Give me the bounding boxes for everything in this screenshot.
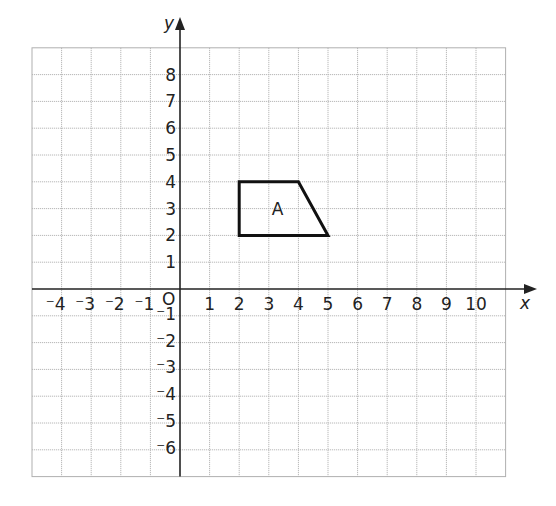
x-tick-label: 8 [411,294,422,314]
y-tick-label: 1 [165,252,176,272]
y-axis-arrow-icon [175,17,185,30]
x-tick-label: 3 [263,294,274,314]
shape-label: A [272,199,284,219]
x-tick-label: 5 [323,294,334,314]
y-tick-label: 4 [165,172,176,192]
x-tick-labels: ⁻4⁻3⁻2⁻112345678910 [46,294,487,314]
y-tick-label: 5 [165,145,176,165]
y-tick-label: 3 [165,199,176,219]
coordinate-grid-chart: x y O ⁻4⁻3⁻2⁻112345678910 87654321⁻1⁻2⁻3… [0,0,556,506]
x-tick-label: 2 [234,294,245,314]
axes: x y O [32,13,537,477]
y-tick-label: 2 [165,225,176,245]
x-tick-label: ⁻2 [105,294,125,314]
y-tick-label: ⁻4 [156,384,176,404]
x-tick-label: ⁻3 [75,294,95,314]
y-tick-label: ⁻3 [156,357,176,377]
y-tick-label: ⁻1 [156,304,176,324]
x-tick-label: 9 [441,294,452,314]
x-tick-label: 6 [352,294,363,314]
y-tick-label: ⁻5 [156,411,176,431]
x-tick-label: 10 [465,294,487,314]
x-tick-label: 4 [293,294,304,314]
x-tick-label: 7 [382,294,393,314]
y-axis-label: y [163,13,175,33]
x-axis-label: x [519,293,531,313]
x-tick-label: 1 [204,294,215,314]
y-tick-label: 7 [165,91,176,111]
x-tick-label: ⁻1 [135,294,155,314]
grid-lines [32,48,506,477]
y-tick-label: ⁻6 [156,438,176,458]
y-tick-label: 6 [165,118,176,138]
x-tick-label: ⁻4 [46,294,66,314]
y-tick-labels: 87654321⁻1⁻2⁻3⁻4⁻5⁻6 [156,65,176,458]
y-tick-label: 8 [165,65,176,85]
y-tick-label: ⁻2 [156,331,176,351]
